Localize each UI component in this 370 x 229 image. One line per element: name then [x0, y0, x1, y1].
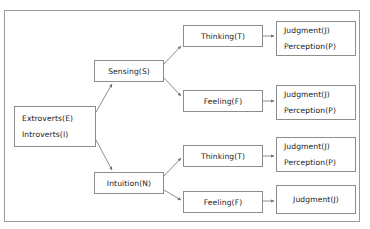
- diagram-canvas: Extroverts(E)Introverts(I)Sensing(S)Intu…: [0, 0, 370, 229]
- node-label-outcome-2-1: Perception(P): [284, 105, 336, 116]
- node-label-outcome-1-1: Perception(P): [284, 41, 336, 52]
- node-label-feeling-bottom-0: Feeling(F): [204, 197, 242, 208]
- node-outcome-2[interactable]: Judgment(J)Perception(P): [276, 85, 356, 120]
- node-label-intuition-0: Intuition(N): [107, 178, 151, 189]
- node-sensing[interactable]: Sensing(S): [94, 60, 164, 82]
- node-label-feeling-top-0: Feeling(F): [204, 96, 242, 107]
- node-label-outcome-3-1: Perception(P): [284, 157, 336, 168]
- node-thinking-bottom[interactable]: Thinking(T): [183, 145, 263, 167]
- node-feeling-top[interactable]: Feeling(F): [183, 90, 263, 112]
- node-feeling-bottom[interactable]: Feeling(F): [183, 191, 263, 213]
- node-outcome-4[interactable]: Judgment(J): [276, 185, 356, 214]
- node-label-outcome-2-0: Judgment(J): [284, 89, 330, 100]
- node-label-outcome-4-0: Judgment(J): [293, 194, 339, 205]
- node-label-sensing-0: Sensing(S): [108, 66, 150, 77]
- node-attitude[interactable]: Extroverts(E)Introverts(I): [14, 106, 96, 147]
- node-thinking-top[interactable]: Thinking(T): [183, 25, 263, 47]
- node-label-attitude-1: Introverts(I): [22, 129, 68, 140]
- node-label-outcome-3-0: Judgment(J): [284, 141, 330, 152]
- node-outcome-3[interactable]: Judgment(J)Perception(P): [276, 137, 356, 172]
- node-outcome-1[interactable]: Judgment(J)Perception(P): [276, 21, 356, 56]
- node-label-outcome-1-0: Judgment(J): [284, 25, 330, 36]
- node-label-attitude-0: Extroverts(E): [22, 113, 73, 124]
- node-label-thinking-bottom-0: Thinking(T): [201, 151, 245, 162]
- node-intuition[interactable]: Intuition(N): [94, 172, 164, 194]
- node-label-thinking-top-0: Thinking(T): [201, 31, 245, 42]
